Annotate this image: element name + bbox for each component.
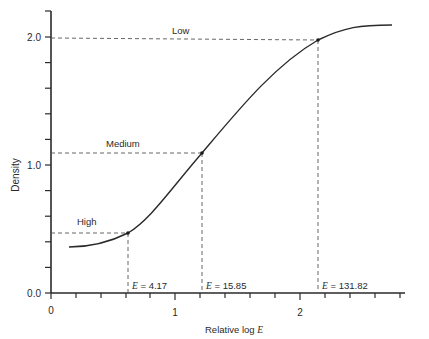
low-point [316,38,320,42]
y-tick-label-1: 1.0 [27,160,41,171]
label-low: Low [172,25,190,36]
low-h-guide [51,38,318,40]
x-tick-labels: 0 1 2 [48,305,303,318]
x-tick-label-0: 0 [48,305,54,316]
y-tick-label-0: 0.0 [27,288,41,299]
e-label-low: E = 131.82 [321,280,368,291]
y-tick-labels: 0.0 1.0 2.0 [27,32,41,299]
high-point [126,231,130,235]
label-high: High [77,216,97,227]
medium-point [200,151,204,155]
x-axis-title: Relative log E [205,324,263,335]
axes [51,11,405,293]
x-axis-title-text: Relative log [205,324,257,335]
x-tick-label-2: 2 [297,307,303,318]
markers [126,38,320,235]
label-medium: Medium [106,138,140,149]
characteristic-curve [69,25,392,247]
x-axis-title-var: E [256,325,263,335]
x-tick-label-1: 1 [172,307,178,318]
y-tick-label-2: 2.0 [27,32,41,43]
x-ticks [51,293,400,300]
density-chart: 0.0 1.0 2.0 0 1 2 Density Relative log E… [0,0,429,339]
y-ticks [45,11,51,293]
e-label-high: E = 4.17 [131,280,167,291]
guide-lines [51,38,318,293]
y-axis-title: Density [10,158,21,191]
e-label-medium: E = 15.85 [205,280,246,291]
